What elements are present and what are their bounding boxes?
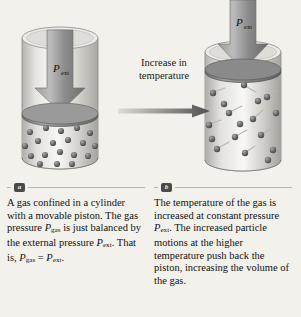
piston-a-top <box>22 103 98 124</box>
caption-b-badge: b <box>161 183 172 192</box>
piston-b-top <box>205 59 281 80</box>
pressure-subscript-b: ext <box>244 23 252 30</box>
pressure-label-a: P <box>52 62 60 74</box>
increase-in-temperature-arrow <box>118 104 210 118</box>
panel-a-compressed-cylinder: P ext <box>0 0 150 180</box>
caption-b-header: b <box>154 180 292 194</box>
pressure-label-b: P <box>235 16 243 28</box>
caption-b-rule <box>175 187 292 188</box>
caption-a-pre-rule <box>7 187 11 188</box>
cylinder-a-illustration: P ext <box>0 0 150 180</box>
transition-line-2: temperature <box>118 70 210 83</box>
panel-b-expanded-cylinder: P ext <box>150 0 301 180</box>
caption-area: a A gas confined in a cylinder with a mo… <box>0 180 301 317</box>
pressure-subscript-a: ext <box>61 69 69 76</box>
caption-a-header: a <box>7 180 145 194</box>
caption-b-text: The temperature of the gas is increased … <box>154 197 292 287</box>
caption-a-badge: a <box>14 183 25 192</box>
caption-a-text: A gas confined in a cylinder with a mova… <box>7 197 145 267</box>
transition-line-1: Increase in <box>118 57 210 70</box>
caption-b: b The temperature of the gas is increase… <box>154 180 292 287</box>
cylinder-b-illustration: P ext <box>150 0 301 180</box>
transition-label: Increase in temperature <box>118 57 210 82</box>
figure-gas-expansion: P ext <box>0 0 301 180</box>
caption-b-pre-rule <box>154 187 158 188</box>
caption-a-rule <box>28 187 145 188</box>
caption-a: a A gas confined in a cylinder with a mo… <box>7 180 145 267</box>
